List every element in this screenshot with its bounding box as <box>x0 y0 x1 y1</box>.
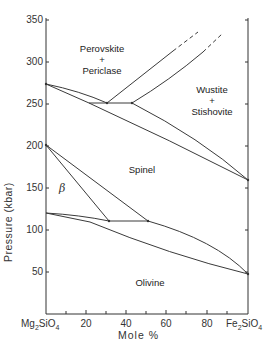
region-label-perovskite-periclase: Perovskite + Periclase <box>72 43 132 76</box>
region-pv-line1: Perovskite <box>72 43 132 54</box>
region-pv-line2: + <box>72 54 132 65</box>
y-tick-label-250: 250 <box>19 98 43 109</box>
y-tick-label-150: 150 <box>19 182 43 193</box>
region-label-wustite-stishovite: Wustite + Stishovite <box>182 84 242 117</box>
region-wu-line1: Wustite <box>182 84 242 95</box>
region-pv-line3: Periclase <box>72 65 132 76</box>
region-label-beta: β <box>59 182 65 195</box>
x-tick-label-20: 20 <box>74 318 98 329</box>
region-label-spinel: Spinel <box>122 164 162 175</box>
region-wu-line2: + <box>182 95 242 106</box>
boundary-wu-rising-dashed <box>203 34 222 52</box>
y-tick-label-50: 50 <box>19 266 43 277</box>
y-tick-label-200: 200 <box>19 140 43 151</box>
right-endmember-label: Fe2SiO4 <box>226 318 262 331</box>
boundary-pv-upper <box>46 84 107 103</box>
boundary-spinel-olivine <box>148 221 248 274</box>
x-axis-label: Mole % <box>118 329 159 341</box>
y-tick-label-350: 350 <box>19 14 43 25</box>
boundary-pv-rising-dashed <box>173 32 198 51</box>
left-endmember-label: Mg2SiO4 <box>21 318 59 331</box>
x-tick-label-40: 40 <box>114 318 138 329</box>
region-wu-line3: Stishovite <box>182 106 242 117</box>
y-tick-label-100: 100 <box>19 224 43 235</box>
x-tick-label-80: 80 <box>195 318 219 329</box>
boundary-beta-a <box>46 145 109 221</box>
x-ticks <box>66 310 227 314</box>
x-tick-label-60: 60 <box>154 318 178 329</box>
y-tick-label-300: 300 <box>19 56 43 67</box>
y-axis-label: Pressure (kbar) <box>2 142 14 262</box>
boundary-olivine-lower <box>46 213 248 274</box>
region-label-olivine: Olivine <box>130 277 170 288</box>
